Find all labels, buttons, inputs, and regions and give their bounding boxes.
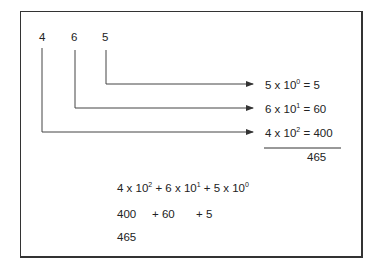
partial-400: 400 [117,209,136,221]
partial-60: + 60 [152,209,175,221]
partial-5: + 5 [196,209,212,221]
total-465: 465 [117,232,136,244]
digit-hundreds: 4 [39,32,45,44]
digit-ones: 5 [102,32,108,44]
expansion-tens: 6 x 101 = 60 [265,104,326,116]
expansion-hundreds: 4 x 102 = 400 [265,128,333,140]
digit-tens: 6 [71,32,77,44]
expanded-form: 4 x 102 + 6 x 101 + 5 x 100 [117,183,249,195]
expansion-ones: 5 x 100 = 5 [265,80,320,92]
sum-value: 465 [307,152,326,164]
